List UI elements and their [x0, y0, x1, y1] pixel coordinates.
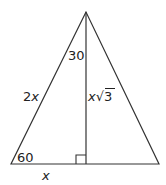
- base-angle-label: 60: [17, 150, 34, 165]
- hypotenuse-variable: x: [30, 89, 39, 104]
- radicand: 3: [104, 89, 112, 104]
- short-leg-label: x: [41, 168, 50, 183]
- hypotenuse-coefficient: 2: [23, 89, 31, 104]
- right-angle-marker: [76, 155, 86, 164]
- hypotenuse-label: 2x: [23, 89, 39, 104]
- apex-angle-label: 30: [68, 48, 85, 63]
- triangle-diagram: 30 60 2x x x√3: [0, 0, 166, 185]
- altitude-variable: x: [87, 89, 96, 104]
- altitude-label: x√3: [87, 89, 112, 104]
- outer-triangle: [11, 12, 159, 164]
